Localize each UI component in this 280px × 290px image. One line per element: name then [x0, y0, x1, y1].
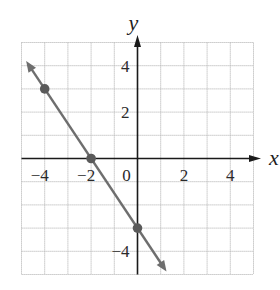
- x-axis-label: x: [268, 145, 279, 170]
- y-tick-label: 4: [121, 57, 130, 76]
- data-point: [133, 223, 143, 233]
- y-axis-label: y: [127, 10, 139, 35]
- x-axis-arrow-icon: [249, 155, 261, 162]
- axes: [22, 35, 261, 274]
- x-tick-label: 4: [226, 166, 235, 185]
- data-line: [31, 68, 162, 264]
- x-tick-label: −2: [77, 166, 95, 185]
- x-tick-label: 0: [122, 166, 131, 185]
- x-tick-label: 2: [180, 166, 189, 185]
- line-arrow-end-icon: [157, 260, 167, 272]
- coordinate-plane-chart: −4−202442−4 x y: [0, 0, 280, 290]
- line-arrow-start-icon: [26, 61, 36, 73]
- data-point: [40, 84, 50, 94]
- x-tick-label: −4: [31, 166, 50, 185]
- y-tick-label: 2: [121, 103, 130, 122]
- data-point: [86, 154, 96, 164]
- y-tick-label: −4: [111, 242, 130, 261]
- y-axis-arrow-icon: [134, 35, 141, 47]
